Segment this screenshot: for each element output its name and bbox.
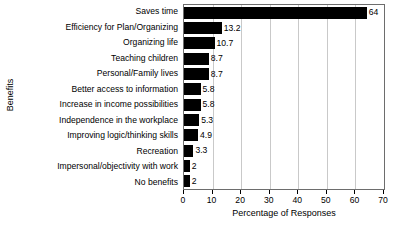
bar-value-label: 5.8 [203, 85, 215, 94]
bar-value-label: 4.9 [200, 131, 212, 140]
category-label: Increase in income possibilities [18, 97, 181, 113]
bar [184, 37, 215, 49]
category-label: Efficiency for Plan/Organizing [18, 20, 181, 36]
bar-row: 8.7 [184, 66, 384, 81]
bar-row: 5.8 [184, 82, 384, 97]
category-label: Improving logic/thinking skills [18, 128, 181, 144]
plot-area: 6413.210.78.78.75.85.85.34.93.322 [183, 4, 385, 190]
bar [184, 83, 201, 95]
bar-row: 5.3 [184, 112, 384, 127]
x-tick-label: 10 [207, 194, 217, 206]
x-axis-title: Percentage of Responses [183, 208, 385, 218]
bar [184, 99, 201, 111]
bar-row: 4.9 [184, 128, 384, 143]
bar [184, 114, 199, 126]
category-label: Independence in the workplace [18, 113, 181, 129]
bar [184, 68, 209, 80]
bar-value-label: 8.7 [211, 54, 223, 63]
category-label: Recreation [18, 144, 181, 160]
category-label: Saves time [18, 4, 181, 20]
bar-value-label: 2 [192, 162, 197, 171]
bar-row: 13.2 [184, 20, 384, 35]
bar-value-label: 3.3 [195, 146, 207, 155]
bar-value-label: 2 [192, 177, 197, 186]
category-axis: Saves timeEfficiency for Plan/Organizing… [18, 4, 181, 190]
bar [184, 53, 209, 65]
bar-row: 8.7 [184, 51, 384, 66]
bar-chart: Benefits Saves timeEfficiency for Plan/O… [0, 0, 408, 232]
category-label: Impersonal/objectivity with work [18, 159, 181, 175]
bar-value-label: 10.7 [217, 39, 234, 48]
bar-value-label: 5.8 [203, 100, 215, 109]
category-label: Better access to information [18, 82, 181, 98]
bar [184, 160, 190, 172]
bar-row: 3.3 [184, 143, 384, 158]
bar [184, 7, 367, 19]
bar-row: 64 [184, 5, 384, 20]
bar-row: 5.8 [184, 97, 384, 112]
y-axis-title: Benefits [2, 0, 18, 190]
x-tick-label: 20 [235, 194, 245, 206]
bar [184, 175, 190, 187]
bar [184, 129, 198, 141]
bar [184, 145, 193, 157]
x-tick-label: 40 [293, 194, 303, 206]
category-label: No benefits [18, 175, 181, 191]
bar-value-label: 5.3 [201, 116, 213, 125]
bar [184, 22, 222, 34]
x-tick-label: 0 [181, 194, 186, 206]
category-label: Organizing life [18, 35, 181, 51]
bar-series: 6413.210.78.78.75.85.85.34.93.322 [184, 5, 384, 189]
bar-row: 10.7 [184, 36, 384, 51]
bar-value-label: 8.7 [211, 70, 223, 79]
category-label: Teaching children [18, 51, 181, 67]
x-tick-label: 50 [321, 194, 331, 206]
bar-value-label: 13.2 [224, 24, 241, 33]
category-label: Personal/Family lives [18, 66, 181, 82]
x-axis-tick-labels: 010203040506070 [183, 194, 385, 206]
y-axis-title-text: Benefits [5, 79, 15, 112]
bar-value-label: 64 [369, 8, 379, 17]
x-tick-label: 70 [378, 194, 388, 206]
x-tick-label: 60 [350, 194, 360, 206]
x-tick-label: 30 [264, 194, 274, 206]
bar-row: 2 [184, 158, 384, 173]
bar-row: 2 [184, 174, 384, 189]
